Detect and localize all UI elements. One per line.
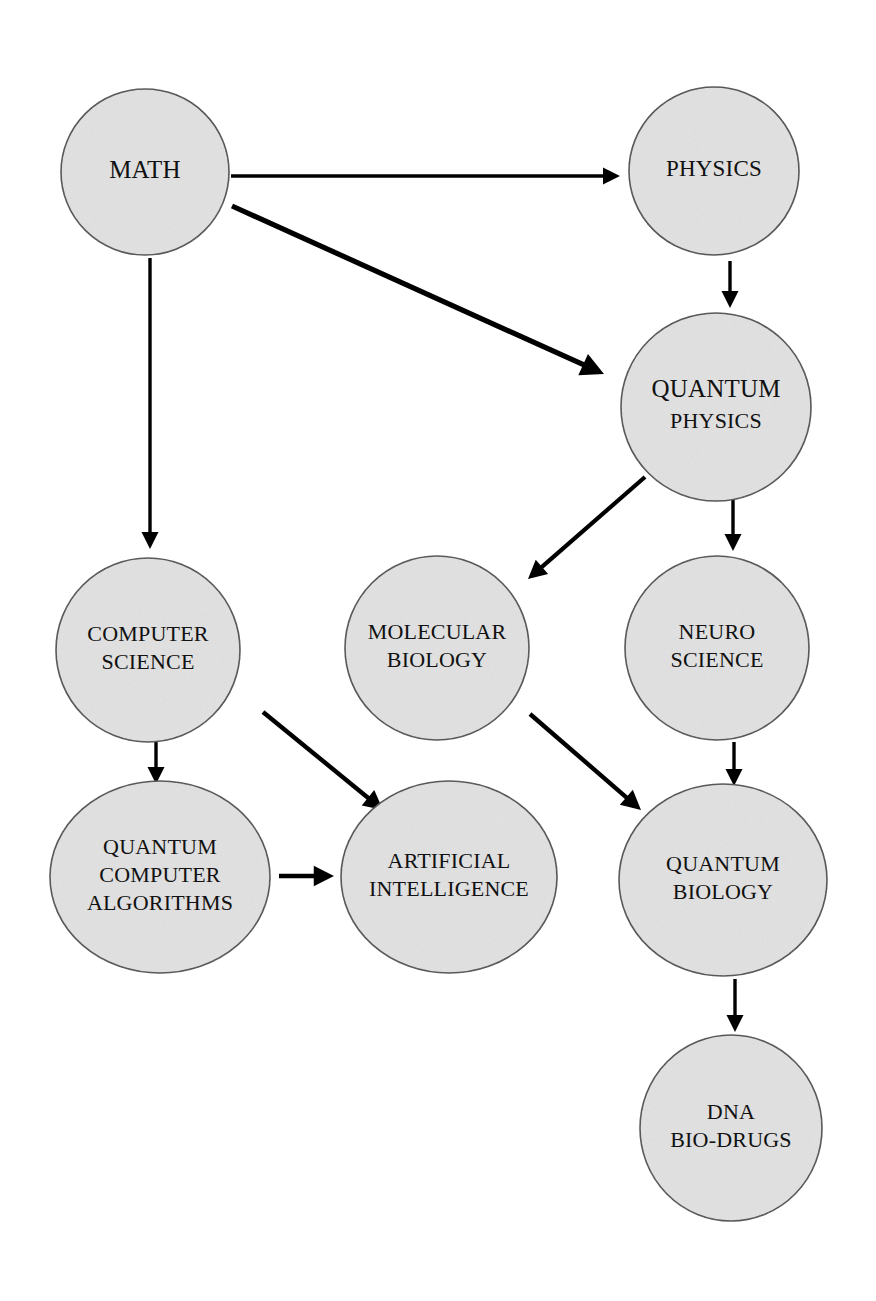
node-label-line: ARTIFICIAL [388, 848, 511, 873]
node-label-line: MOLECULAR [368, 619, 507, 644]
arrowhead-icon [142, 532, 159, 549]
edge-quantum-biology-to-dna-bio-drugs [727, 979, 744, 1032]
node-label-line: COMPUTER [99, 862, 221, 887]
edge-line [263, 712, 369, 799]
node-label-line: INTELLIGENCE [369, 876, 529, 901]
nodes-layer: MATHPHYSICSQUANTUMPHYSICSCOMPUTERSCIENCE… [50, 87, 827, 1221]
node-quantum-physics[interactable]: QUANTUMPHYSICS [621, 313, 811, 501]
node-label-line: SCIENCE [101, 649, 194, 674]
diagram-canvas: MATHPHYSICSQUANTUMPHYSICSCOMPUTERSCIENCE… [0, 0, 876, 1301]
node-computer-science[interactable]: COMPUTERSCIENCE [56, 558, 240, 742]
node-label-line: MATH [109, 156, 181, 183]
node-label: PHYSICS [666, 156, 762, 181]
node-label-line: QUANTUM [651, 375, 780, 402]
arrowhead-icon [314, 866, 334, 887]
node-neuro-science[interactable]: NEUROSCIENCE [625, 556, 809, 740]
arrowhead-icon [727, 1015, 744, 1032]
arrowhead-icon [722, 291, 739, 308]
node-physics[interactable]: PHYSICS [629, 87, 799, 255]
node-quantum-computer-algorithms[interactable]: QUANTUMCOMPUTERALGORITHMS [50, 781, 270, 973]
node-label-line: PHYSICS [666, 156, 762, 181]
node-math[interactable]: MATH [61, 89, 229, 255]
edge-math-to-quantum-physics [232, 206, 604, 375]
node-label-line: COMPUTER [87, 621, 209, 646]
edge-neuro-science-to-quantum-biology [726, 742, 743, 786]
edge-math-to-physics [231, 168, 620, 185]
edge-line [232, 206, 585, 365]
node-label-line: ALGORITHMS [87, 890, 233, 915]
edge-quantum-physics-to-molecular-biology [528, 477, 645, 579]
node-label-line: BIOLOGY [673, 879, 773, 904]
node-quantum-biology[interactable]: QUANTUMBIOLOGY [619, 784, 827, 976]
node-label: QUANTUMCOMPUTERALGORITHMS [87, 834, 233, 915]
node-label-line: SCIENCE [670, 647, 763, 672]
node-label-line: NEURO [679, 619, 756, 644]
edge-line [530, 714, 627, 798]
edge-computer-science-to-artificial-intelligence [263, 712, 383, 810]
edge-quantum-physics-to-neuro-science [725, 500, 742, 551]
arrowhead-icon [725, 534, 742, 551]
node-label-line: QUANTUM [103, 834, 217, 859]
edge-math-to-computer-science [142, 258, 159, 549]
node-artificial-intelligence[interactable]: ARTIFICIALINTELLIGENCE [341, 781, 557, 973]
node-molecular-biology[interactable]: MOLECULARBIOLOGY [345, 556, 529, 740]
node-label-line: DNA [707, 1099, 755, 1124]
flow-chart-svg: MATHPHYSICSQUANTUMPHYSICSCOMPUTERSCIENCE… [0, 0, 876, 1301]
edge-physics-to-quantum-physics [722, 261, 739, 308]
node-label-line: QUANTUM [666, 851, 780, 876]
node-label-line: BIOLOGY [387, 647, 487, 672]
node-label-line: BIO-DRUGS [670, 1127, 792, 1152]
node-label: MATH [109, 156, 181, 183]
edge-quantum-computer-algorithms-to-artificial-intelligence [279, 866, 334, 887]
node-label-line: PHYSICS [670, 408, 762, 433]
edge-molecular-biology-to-quantum-biology [530, 714, 641, 810]
node-ellipse[interactable] [621, 313, 811, 501]
edge-line [541, 477, 645, 568]
node-dna-bio-drugs[interactable]: DNABIO-DRUGS [640, 1035, 822, 1221]
arrowhead-icon [603, 168, 620, 185]
